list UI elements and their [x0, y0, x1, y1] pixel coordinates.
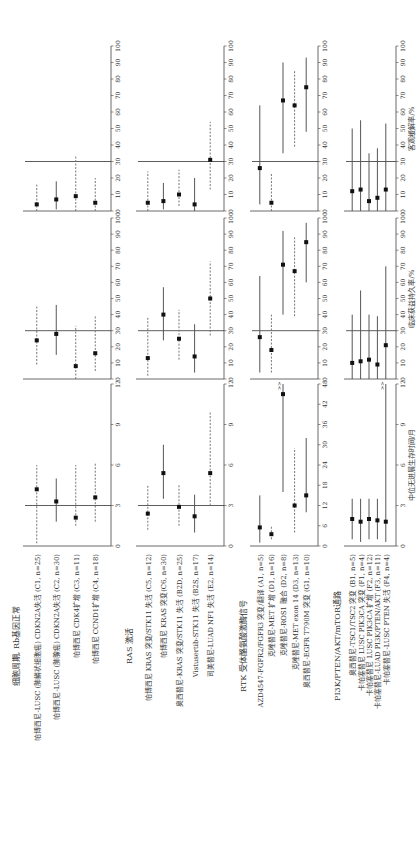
point-estimate — [269, 201, 273, 205]
row-label: 奥西替尼-EGFR T790M 突变 (G1, n=10) — [302, 554, 311, 688]
tick-label: 60 — [227, 278, 234, 286]
tick-label: 80 — [321, 246, 328, 254]
point-estimate — [258, 166, 262, 170]
tick-label: 80 — [399, 75, 406, 83]
tick-label: 50 — [321, 125, 328, 133]
tick-label: 70 — [227, 92, 234, 100]
point-estimate — [359, 359, 363, 363]
tick-label: 12 — [399, 380, 406, 388]
tick-label: 42 — [321, 400, 328, 408]
tick-label: 40 — [321, 311, 328, 319]
tick-label: 30 — [114, 327, 121, 335]
tick-label: 70 — [321, 92, 328, 100]
point-estimate — [177, 337, 181, 341]
point-estimate — [161, 313, 165, 317]
tick-label: 10 — [399, 191, 406, 199]
tick-label: 50 — [399, 295, 406, 303]
tick-label: 20 — [399, 343, 406, 351]
row-label: Vistusertib-STK11 失活 (B2S, n=17) — [191, 554, 200, 679]
point-estimate — [35, 202, 39, 206]
point-estimate — [193, 354, 197, 358]
point-estimate — [208, 297, 212, 301]
tick-label: 90 — [114, 59, 121, 67]
point-estimate — [258, 525, 262, 529]
tick-label: 9 — [227, 422, 234, 426]
point-estimate — [161, 471, 165, 475]
orr-axis-title: 客观缓解率/% — [407, 106, 416, 150]
row-label: 帕博西尼 CCND1扩增 (C4, n=18) — [91, 554, 100, 665]
row-label: 奥西替尼-KRAS 突变/STK11 失活 (B2D, n=25) — [175, 554, 184, 707]
tick-label: 100 — [114, 212, 121, 224]
group-0: 细胞周期, Rb基因正常帕博西尼-LUSC (肺鳞状细胞癌) CDKN2A失活 … — [11, 40, 121, 741]
point-estimate — [375, 196, 379, 200]
tick-label: 80 — [114, 246, 121, 254]
row-label: 卡帕塞替尼 LUSC PIK3CA 突变 (F1, n=4) — [357, 554, 366, 692]
tick-label: 60 — [321, 108, 328, 116]
tick-label: 3 — [399, 503, 406, 507]
point-estimate — [54, 197, 58, 201]
forest-plot-svg: 细胞周期, Rb基因正常帕博西尼-LUSC (肺鳞状细胞癌) CDKN2A失活 … — [0, 0, 420, 846]
tick-label: 100 — [321, 40, 328, 52]
point-estimate — [375, 518, 379, 522]
row-label: 帕博西尼-LUSC (肺鳞状细胞癌) CDKN2A失活 (C1, n=25) — [33, 554, 42, 741]
point-estimate — [177, 505, 181, 509]
tick-label: 90 — [227, 230, 234, 238]
point-estimate — [293, 269, 297, 273]
tick-label: 9 — [114, 422, 121, 426]
tick-label: 0 — [399, 377, 406, 381]
tick-label: 18 — [321, 481, 328, 489]
point-estimate — [281, 263, 285, 267]
group-3: PI3K/PTEN/AKT/mTOR通路奥西替尼-TSC1/TSC2 突变 (B… — [332, 40, 406, 709]
point-estimate — [146, 512, 150, 516]
forest-plot-figure: 细胞周期, Rb基因正常帕博西尼-LUSC (肺鳞状细胞癌) CDKN2A失活 … — [0, 0, 420, 846]
group-2: RTK 受体酪氨酸激酶信号AZD4547-FGFR2/FGFR3 突变/翻译 (… — [238, 40, 328, 708]
point-estimate — [350, 361, 354, 365]
point-estimate — [367, 199, 371, 203]
tick-label: 50 — [399, 125, 406, 133]
point-estimate — [193, 514, 197, 518]
tick-label: 30 — [227, 327, 234, 335]
tick-label: 36 — [321, 421, 328, 429]
tick-label: 40 — [399, 141, 406, 149]
tick-label: 12 — [227, 380, 234, 388]
tick-label: 0 — [321, 544, 328, 548]
tick-label: 90 — [399, 59, 406, 67]
tick-label: 20 — [114, 174, 121, 182]
tick-label: 10 — [399, 359, 406, 367]
group-title: RAS 激活 — [124, 628, 134, 664]
tick-label: 10 — [227, 359, 234, 367]
row-label: 克唑替尼-MET exon 14 (D3, n=13) — [291, 554, 300, 671]
point-estimate — [74, 516, 78, 520]
tick-label: 0 — [227, 377, 234, 381]
tick-label: 20 — [114, 343, 121, 351]
tick-label: 30 — [399, 327, 406, 335]
tick-label: 20 — [321, 343, 328, 351]
point-estimate — [359, 520, 363, 524]
tick-label: 0 — [399, 544, 406, 548]
group-title: RTK 受体酪氨酸激酶信号 — [238, 600, 248, 692]
row-label: 帕博西尼 CDK4扩增 (C3, n=11) — [72, 554, 81, 659]
tick-label: 60 — [114, 108, 121, 116]
tick-label: 0 — [114, 209, 121, 213]
tick-label: 50 — [227, 125, 234, 133]
tick-label: 40 — [399, 311, 406, 319]
tick-label: 70 — [114, 92, 121, 100]
tick-label: 50 — [114, 295, 121, 303]
point-estimate — [146, 356, 150, 360]
tick-label: 70 — [321, 262, 328, 270]
tick-label: 80 — [227, 75, 234, 83]
point-estimate — [350, 189, 354, 193]
row-label: 克唑替尼-ROS1 融合 (D2, n=8) — [279, 554, 288, 656]
point-estimate — [258, 335, 262, 339]
tick-label: 50 — [321, 295, 328, 303]
point-estimate — [269, 532, 273, 536]
tick-label: 80 — [399, 246, 406, 254]
tick-label: 90 — [399, 230, 406, 238]
tick-label: 30 — [321, 441, 328, 449]
tick-label: 0 — [227, 544, 234, 548]
tick-label: 20 — [227, 174, 234, 182]
row-label: 司美替尼-LUAD NF1 失活 (E2, n=14) — [206, 554, 215, 678]
group-1: RAS 激活帕博西尼 KRAS 突变/STK11 失活 (C5, n=12)帕博… — [124, 40, 234, 707]
tick-label: 70 — [399, 262, 406, 270]
tick-label: 10 — [227, 191, 234, 199]
